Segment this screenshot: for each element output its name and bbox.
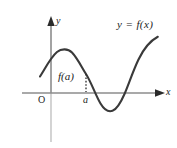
function-graph-figure: y x O a f(a) y = f(x) [0, 0, 177, 148]
function-name-label: y = f(x) [117, 19, 153, 30]
function-value-label: f(a) [58, 71, 74, 82]
y-axis-arrow-icon [47, 16, 54, 26]
y-axis-label: y [56, 16, 60, 26]
x-axis-label: x [166, 87, 170, 97]
x-tick-label-a: a [83, 95, 88, 105]
origin-label: O [38, 95, 45, 105]
x-axis-arrow-icon [155, 89, 165, 96]
